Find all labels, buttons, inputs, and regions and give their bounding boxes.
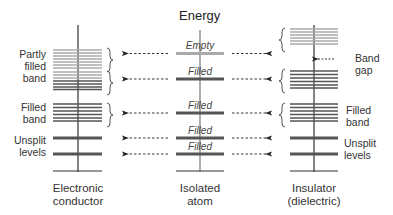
atom-level-label: Filled xyxy=(175,66,225,77)
band-gap-label: Band gap xyxy=(355,52,380,76)
brace-icon xyxy=(279,28,285,52)
partly-filled-band-label: Partly filled band xyxy=(0,48,46,84)
brace-icon xyxy=(279,103,285,127)
atom-level-label: Filled xyxy=(175,125,225,136)
right-arrows xyxy=(232,54,266,155)
diagram-title: Energy xyxy=(179,8,220,23)
left-arrows xyxy=(128,54,168,155)
unsplit-levels-label-right: Unsplit levels xyxy=(344,137,376,161)
unsplit-levels-label-left: Unsplit levels xyxy=(0,134,46,158)
brace-icon xyxy=(107,71,113,95)
brace-icon xyxy=(107,48,113,72)
atom-level-label: Filled xyxy=(175,141,225,152)
insulator-column-label: Insulator (dielectric) xyxy=(274,182,354,208)
filled-band-label-right: Filled band xyxy=(346,104,371,128)
filled-band-label-left: Filled band xyxy=(0,101,46,125)
atom-level-label: Empty xyxy=(175,40,225,51)
atom-level-label: Filled xyxy=(175,100,225,111)
conductor-column-label: Electronic conductor xyxy=(38,182,118,208)
conductor-column xyxy=(53,25,113,172)
brace-icon xyxy=(279,69,285,93)
atom-column-label: Isolated atom xyxy=(160,182,240,208)
insulator-column xyxy=(279,25,338,172)
brace-icon xyxy=(107,103,113,127)
